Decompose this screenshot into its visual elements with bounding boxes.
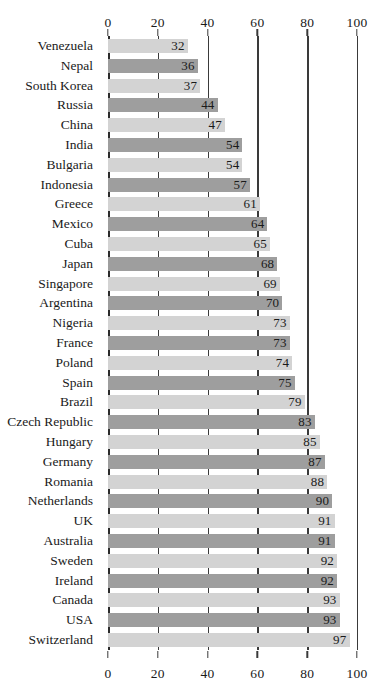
bar-row: 64 [108,217,357,231]
bar-value-label: 73 [273,336,286,349]
category-label-venezuela: Venezuela [38,39,93,53]
bar-nepal: 36 [108,59,198,73]
category-label-czech-republic: Czech Republic [7,415,93,429]
bar-cuba: 65 [108,237,270,251]
bar-value-label: 54 [226,158,239,171]
category-label-uk: UK [74,514,94,528]
category-label-cuba: Cuba [65,237,94,251]
bar-value-label: 93 [323,614,336,627]
bar-value-label: 87 [308,455,321,468]
bar-row: 73 [108,336,357,350]
bar-row: 87 [108,455,357,469]
category-axis-labels: VenezuelaNepalSouth KoreaRussiaChinaIndi… [0,36,101,650]
x-tick-mark-bottom-100 [356,651,357,658]
bar-japan: 68 [108,257,277,271]
x-tick-label-top-40: 40 [201,16,215,30]
bar-value-label: 68 [261,257,274,270]
x-tick-label-bottom-40: 40 [201,667,215,681]
bar-china: 47 [108,118,225,132]
bar-nigeria: 73 [108,316,290,330]
x-tick-mark-top-60 [257,29,258,36]
gridline-100 [357,36,358,650]
bar-mexico: 64 [108,217,267,231]
bar-value-label: 65 [253,237,266,250]
bar-germany: 87 [108,455,325,469]
bar-france: 73 [108,336,290,350]
bar-row: 92 [108,554,357,568]
bar-value-label: 61 [243,198,256,211]
x-tick-mark-top-0 [107,29,108,36]
bar-value-label: 47 [209,118,222,131]
category-label-canada: Canada [53,593,93,607]
x-tick-label-top-80: 80 [300,16,314,30]
bar-row: 47 [108,118,357,132]
bar-value-label: 73 [273,316,286,329]
category-label-mexico: Mexico [52,217,93,231]
category-label-china: China [61,118,93,132]
bar-value-label: 91 [318,534,331,547]
x-tick-label-top-0: 0 [104,16,111,30]
x-tick-label-bottom-80: 80 [300,667,314,681]
bar-row: 91 [108,534,357,548]
bar-value-label: 93 [323,594,336,607]
category-label-romania: Romania [44,475,93,489]
x-tick-mark-bottom-20 [157,651,158,658]
category-label-ireland: Ireland [55,574,93,588]
bar-value-label: 36 [181,59,194,72]
bar-row: 68 [108,257,357,271]
bar-row: 54 [108,138,357,152]
bar-canada: 93 [108,593,340,607]
bar-singapore: 69 [108,277,280,291]
x-tick-label-bottom-100: 100 [346,667,367,681]
bar-value-label: 57 [234,178,247,191]
x-tick-mark-top-100 [356,29,357,36]
category-label-sweden: Sweden [50,554,93,568]
bar-brazil: 79 [108,395,305,409]
category-label-hungary: Hungary [46,435,93,449]
bar-indonesia: 57 [108,178,250,192]
bar-row: 97 [108,633,357,647]
bar-row: 61 [108,197,357,211]
category-label-indonesia: Indonesia [41,178,93,192]
category-label-spain: Spain [62,376,93,390]
x-tick-mark-bottom-40 [207,651,208,658]
bar-usa: 93 [108,613,340,627]
category-label-switzerland: Switzerland [29,633,93,647]
bar-switzerland: 97 [108,633,350,647]
bar-row: 73 [108,316,357,330]
category-label-australia: Australia [44,534,94,548]
bar-south-korea: 37 [108,79,200,93]
bar-value-label: 32 [171,39,184,52]
plot-area: 3236374447545457616465686970737374757983… [108,36,357,650]
bar-row: 69 [108,277,357,291]
bar-greece: 61 [108,197,260,211]
bar-value-label: 70 [266,297,279,310]
bar-value-label: 79 [288,396,301,409]
x-tick-label-bottom-20: 20 [151,667,165,681]
bar-row: 70 [108,296,357,310]
x-tick-mark-top-80 [306,29,307,36]
bar-value-label: 92 [321,574,334,587]
category-label-usa: USA [66,613,93,627]
bar-value-label: 88 [311,475,324,488]
bar-romania: 88 [108,475,327,489]
bar-argentina: 70 [108,296,282,310]
bar-netherlands: 90 [108,494,332,508]
bar-row: 57 [108,178,357,192]
bar-value-label: 91 [318,514,331,527]
bar-value-label: 75 [278,376,291,389]
x-tick-label-top-60: 60 [250,16,264,30]
bar-row: 44 [108,98,357,112]
x-tick-mark-top-40 [207,29,208,36]
category-label-japan: Japan [62,257,93,271]
bar-value-label: 83 [298,415,311,428]
category-label-argentina: Argentina [39,296,93,310]
bar-row: 65 [108,237,357,251]
category-label-netherlands: Netherlands [28,494,93,508]
category-label-poland: Poland [55,356,93,370]
category-label-singapore: Singapore [38,277,93,291]
bar-row: 36 [108,59,357,73]
bar-value-label: 69 [263,277,276,290]
x-tick-label-bottom-60: 60 [250,667,264,681]
bar-value-label: 54 [226,138,239,151]
